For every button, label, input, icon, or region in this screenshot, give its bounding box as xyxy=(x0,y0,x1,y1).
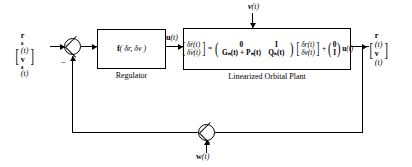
output-state-vector: [ r(t) v(t) ] xyxy=(368,32,389,68)
lhs-row-velocity-rate: δv̇(t) xyxy=(187,49,201,57)
input-matrix-right-paren: ) xyxy=(338,42,342,56)
arrowhead-noise-to-sum xyxy=(204,140,210,145)
wire-feedback-vertical-left xyxy=(72,56,73,132)
state-vector-left-bracket: [ xyxy=(297,42,300,56)
reference-vector-left-bracket: [ xyxy=(15,48,18,64)
regulator-expression: f( δr, δv ) xyxy=(117,44,146,53)
linearized-orbital-plant-block[interactable]: [ δṙ(t) δv̇(t) ] = ( 0 I Gₙ(t) + Pₙ(t) … xyxy=(183,28,351,70)
block-diagram-canvas: [ ra(t) va(t) ] – f( δr, δv ) Regulator … xyxy=(0,0,412,167)
output-vector-row-position: r(t) xyxy=(375,32,383,50)
system-matrix-cell-r2c2: Qₙ(t) xyxy=(263,49,289,57)
feedback-minus-sign: – xyxy=(61,57,66,66)
control-signal-label: u(t) xyxy=(166,33,178,42)
wire-feedback-vertical-right xyxy=(362,46,363,132)
system-matrix-row-2: Gₙ(t) + Pₙ(t) Qₙ(t) xyxy=(219,49,289,57)
input-matrix-row-2: I xyxy=(333,49,337,57)
disturbance-input-label: v(t) xyxy=(248,2,259,11)
regulator-block[interactable]: f( δr, δv ) xyxy=(97,29,166,69)
measurement-noise-summing-junction[interactable] xyxy=(198,124,215,141)
arrowhead-feedback-to-error-sum xyxy=(70,56,76,61)
regulator-function-args: ( δr, δv ) xyxy=(120,44,147,53)
system-matrix-left-paren: ( xyxy=(215,42,219,56)
state-vector-row-velocity: δv(t) xyxy=(301,49,315,57)
wire-feedback-horizontal-right xyxy=(215,132,363,133)
input-matrix: 0 I xyxy=(333,41,337,58)
equation-plus-sign: + xyxy=(321,45,327,53)
reference-vector-row-position: ra(t) xyxy=(21,32,29,56)
reference-state-vector: [ ra(t) va(t) ] xyxy=(14,32,35,79)
state-vector-right-bracket: ] xyxy=(317,42,320,56)
output-vector-right-bracket: ] xyxy=(384,42,387,58)
error-summing-junction[interactable] xyxy=(64,38,81,55)
regulator-caption: Regulator xyxy=(97,71,166,80)
reference-vector-row-velocity: va(t) xyxy=(21,56,29,80)
lhs-derivative-vector: δṙ(t) δv̇(t) xyxy=(186,41,200,58)
input-matrix-left-paren: ( xyxy=(328,42,332,56)
plant-state-space-equation: [ δṙ(t) δv̇(t) ] = ( 0 I Gₙ(t) + Pₙ(t) … xyxy=(181,41,354,58)
plant-caption: Linearized Orbital Plant xyxy=(183,72,351,81)
lhs-right-bracket: ] xyxy=(202,42,205,56)
equation-equals-sign: = xyxy=(207,45,214,53)
state-vector: δr(t) δv(t) xyxy=(301,41,315,58)
output-vector-left-bracket: [ xyxy=(369,42,372,58)
reference-vector-right-bracket: ] xyxy=(30,48,33,64)
lhs-left-bracket: [ xyxy=(182,42,185,56)
noise-sum-cross-line-2 xyxy=(199,121,210,132)
system-matrix-cell-r2c1: Gₙ(t) + Pₙ(t) xyxy=(219,49,263,57)
measurement-noise-label: w(t) xyxy=(196,152,209,161)
sum-cross-line-2 xyxy=(65,35,76,46)
wire-feedback-horizontal-left xyxy=(72,132,198,133)
system-matrix-right-paren: ) xyxy=(290,42,294,56)
output-vector-row-velocity: v(t) xyxy=(375,50,383,68)
system-matrix: 0 I Gₙ(t) + Pₙ(t) Qₙ(t) xyxy=(219,41,289,58)
